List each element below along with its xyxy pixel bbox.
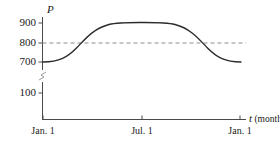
population-curve <box>43 22 241 62</box>
x-tick-label-jul-1: Jul. 1 <box>116 126 168 136</box>
chart-canvas <box>0 0 280 144</box>
x-tick-label-jan-1-end: Jan. 1 <box>214 126 266 136</box>
x-tick-label-jan-1-start: Jan. 1 <box>17 126 69 136</box>
population-chart-figure: 900 800 700 100 P Jan. 1 Jul. 1 Jan. 1 t… <box>0 0 280 144</box>
y-tick-label-800: 800 <box>12 37 36 48</box>
x-axis-title-unit: (months) <box>252 114 280 124</box>
y-tick-label-900: 900 <box>12 17 36 28</box>
y-tick-label-700: 700 <box>12 56 36 67</box>
y-axis-title: P <box>47 4 54 15</box>
y-axis-break-mark <box>39 72 46 80</box>
y-tick-label-100: 100 <box>12 87 36 98</box>
x-axis-title: t (months) <box>249 113 280 125</box>
